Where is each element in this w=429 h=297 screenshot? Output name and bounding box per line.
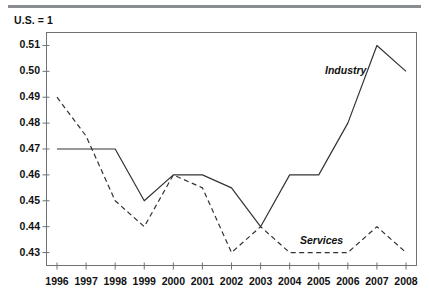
line-chart-svg <box>0 0 429 297</box>
y-axis-tick-label: 0.44 <box>6 220 40 232</box>
series-label-industry: Industry <box>325 64 366 76</box>
y-axis-tick-label: 0.50 <box>6 64 40 76</box>
plot-area: 0.430.440.450.460.470.480.490.500.51 199… <box>0 0 429 297</box>
chart-figure: U.S. = 1 0.430.440.450.460.470.480.490.5… <box>0 0 429 297</box>
y-axis-tick-label: 0.45 <box>6 194 40 206</box>
y-axis-tick-label: 0.48 <box>6 116 40 128</box>
y-axis-tick-label: 0.47 <box>6 142 40 154</box>
y-axis-tick-label: 0.46 <box>6 168 40 180</box>
y-axis-tick-label: 0.43 <box>6 246 40 258</box>
x-axis-tick-label: 2008 <box>389 275 423 287</box>
y-axis-tick-label: 0.51 <box>6 38 40 50</box>
y-axis-tick-label: 0.49 <box>6 90 40 102</box>
series-label-services: Services <box>300 234 343 246</box>
